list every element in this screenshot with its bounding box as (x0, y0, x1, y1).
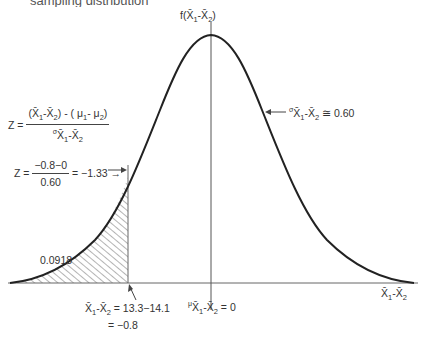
x-axis-label: X̄1-X̄2 (381, 288, 407, 302)
z-arrowhead (121, 167, 127, 173)
bell-curve (10, 35, 414, 283)
mean-label: μX̄1-X̄2 = 0 (188, 300, 236, 316)
shaded-tail-area (10, 177, 128, 283)
cutoff-label: X̄1-X̄2 = 13.3−14.1 (85, 303, 170, 317)
cutoff-label-line2: = −0.8 (108, 320, 138, 331)
y-axis-label: f(X̄1-X̄2) (180, 10, 216, 24)
std-error-label: σX̄1-X̄2 ≅ 0.60 (289, 106, 354, 122)
z-formula: Z = (X̄1-X̄2) - ( μ1- μ2) σX̄1-X̄2 (8, 108, 109, 143)
z-value-calc: Z = −0.8−0 0.60 = −1.33 → (14, 160, 121, 187)
sigma-arrowhead (265, 109, 271, 115)
tail-area-label: 0.0918 (40, 255, 72, 266)
